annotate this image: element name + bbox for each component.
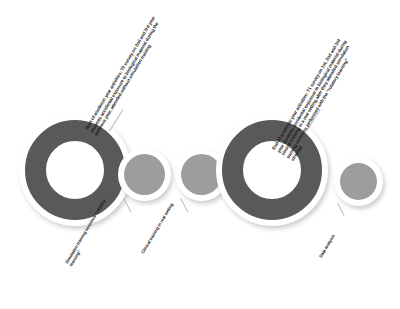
label-t0-survey: Start of academic year activities: T0 su… xyxy=(84,15,166,137)
node-data-analysis-disc[interactable] xyxy=(334,157,383,206)
leader-line-simulation xyxy=(123,198,131,213)
disc-fill xyxy=(340,163,377,200)
node-simulation-training-disc[interactable] xyxy=(118,148,171,201)
leader-line-data-analysis xyxy=(337,203,344,216)
diagram-canvas: Start of academic year activities: T0 su… xyxy=(0,0,400,309)
label-data-analysis: Data analysis xyxy=(318,217,346,259)
node-t0-survey-ring[interactable] xyxy=(19,114,131,226)
disc-fill xyxy=(124,154,165,195)
leader-line-clinical xyxy=(180,198,188,213)
